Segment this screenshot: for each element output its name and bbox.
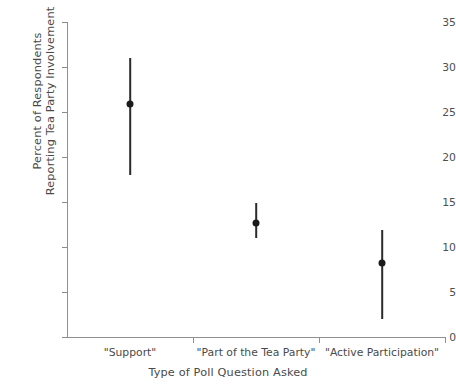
- data-point-support: [127, 101, 134, 108]
- plot-area: [0, 0, 456, 392]
- x-tick-label-support: "Support": [104, 346, 157, 359]
- data-point-active-participation: [379, 260, 386, 267]
- data-point-part-of-the-tea-party: [253, 220, 260, 227]
- error-bar-active-participation: [381, 230, 383, 319]
- x-tick-label-active-participation: "Active Participation": [325, 346, 439, 359]
- x-axis-label: Type of Poll Question Asked: [0, 366, 456, 379]
- error-bar-support: [129, 58, 131, 175]
- x-tick-label-part-of-the-tea-party: "Part of the Tea Party": [197, 346, 316, 359]
- chart-figure: Percent of Respondents Reporting Tea Par…: [0, 0, 456, 392]
